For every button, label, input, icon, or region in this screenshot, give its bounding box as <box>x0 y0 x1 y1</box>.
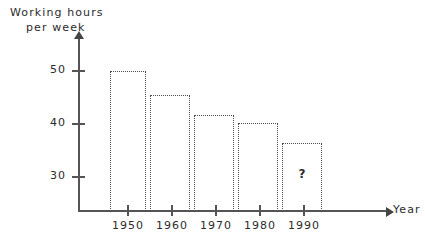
x-axis-tick-label: 1960 <box>149 219 195 232</box>
x-axis-tick-label: 1990 <box>281 219 327 232</box>
y-axis-tick-label: 30 <box>26 169 66 182</box>
bar-1980 <box>238 123 278 211</box>
x-axis-tick-label: 1980 <box>237 219 283 232</box>
y-axis-arrow-icon <box>74 31 84 39</box>
x-axis-tick-label: 1950 <box>105 219 151 232</box>
chart-screenshot: Working hours per week Year 504030195019… <box>0 0 425 241</box>
y-axis-line <box>78 38 80 212</box>
y-axis-tick <box>72 176 85 178</box>
x-axis-title: Year <box>393 203 421 216</box>
x-axis-arrow-icon <box>386 207 394 217</box>
x-axis-tick-label: 1970 <box>193 219 239 232</box>
y-axis-tick-label: 50 <box>26 63 66 76</box>
bar-1960 <box>150 95 190 211</box>
y-axis-tick <box>72 123 85 125</box>
bar-1950 <box>110 71 146 211</box>
bar-1970 <box>194 115 234 211</box>
y-axis-tick <box>72 70 85 72</box>
bar-annotation-question-mark: ? <box>282 167 322 181</box>
y-axis-title-line-1: Working hours <box>10 6 104 19</box>
y-axis-tick-label: 40 <box>26 116 66 129</box>
